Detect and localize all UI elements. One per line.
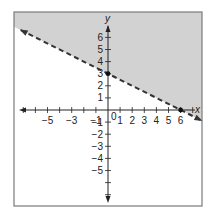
x-tick-label: 6 [178, 115, 184, 126]
y-tick-label: 3 [97, 68, 103, 79]
x-tick-label: −3 [66, 115, 78, 126]
x-tick-label: 3 [142, 115, 148, 126]
shade-polygon [11, 0, 216, 128]
x-tick-label: 4 [154, 115, 160, 126]
x-axis-label: x [194, 104, 201, 115]
y-tick-label: 1 [97, 92, 103, 103]
x-tick-label: 1 [117, 115, 123, 126]
x-tick-label: −5 [42, 115, 54, 126]
y-tick-label: 2 [97, 80, 103, 91]
y-tick-label: 5 [97, 44, 103, 55]
x-intercept-point [178, 108, 183, 113]
shaded-region [11, 0, 216, 128]
x-tick-label: 5 [166, 115, 172, 126]
y-tick-label: −1 [92, 117, 104, 128]
y-tick-label: −2 [92, 129, 104, 140]
y-axis-down-arrow-icon [106, 196, 111, 203]
x-tick-label: 2 [129, 115, 135, 126]
y-tick-label: 4 [97, 56, 103, 67]
y-tick-label: 6 [97, 32, 103, 43]
y-tick-label: −3 [92, 141, 104, 152]
inequality-graph: −5−3−1123456654321−1−2−3−4−50yx [0, 0, 216, 217]
y-intercept-point [106, 71, 111, 76]
origin-label: 0 [111, 111, 117, 122]
y-tick-label: −4 [92, 153, 104, 164]
x-axis-left-arrow-icon [19, 108, 26, 113]
y-tick-label: −5 [92, 165, 104, 176]
line-left-arrow-icon [20, 30, 28, 36]
y-axis-label: y [104, 13, 111, 24]
